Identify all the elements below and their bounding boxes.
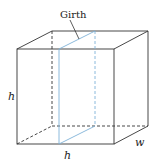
box-diagram: Girth h h w [0, 0, 161, 167]
girth-plane [59, 31, 95, 144]
width-label: w [135, 136, 145, 149]
depth-label: h [64, 149, 71, 162]
hidden-edges [17, 31, 148, 144]
box-edges [17, 31, 148, 144]
girth-pointer [70, 20, 79, 39]
height-label: h [8, 90, 15, 103]
girth-label: Girth [60, 9, 87, 20]
